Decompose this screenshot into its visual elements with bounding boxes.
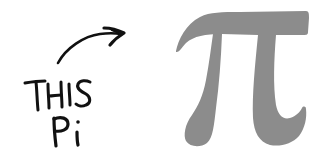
meme-canvas: THIS Pi π <box>0 0 332 160</box>
pi-symbol <box>176 11 309 146</box>
curved-arrow-icon <box>58 28 124 63</box>
illustration <box>0 0 332 160</box>
handwritten-this <box>25 81 90 110</box>
handwritten-pi <box>54 118 80 146</box>
